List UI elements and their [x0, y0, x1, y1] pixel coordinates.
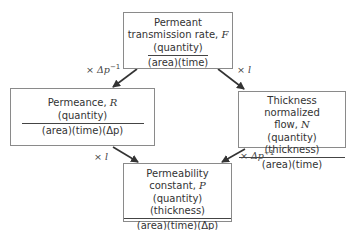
- factor-symbol: Δp: [97, 64, 110, 75]
- multiply-sign: ×: [237, 64, 248, 75]
- unit-fraction: (quantity)(thickness) (area)(time)(Δp): [124, 193, 231, 230]
- label-right-to-bottom: × Δp−1: [240, 150, 274, 161]
- title-line1: Thickness normalized: [239, 95, 345, 119]
- exponent: −1: [264, 149, 274, 157]
- multiply-sign: ×: [240, 150, 251, 161]
- title-text: transmission rate,: [128, 29, 222, 40]
- denominator: (area)(time)(Δp): [22, 124, 144, 137]
- box-thickness-normalized-flow: Thickness normalized flow, N (quantity)(…: [238, 91, 346, 148]
- numerator: (quantity): [22, 110, 144, 124]
- title-line2: constant, P: [124, 180, 231, 192]
- numerator: (quantity)(thickness): [124, 193, 231, 219]
- label-top-to-left: × Δp−1: [86, 64, 120, 75]
- variable-symbol: R: [110, 97, 118, 108]
- numerator: (quantity): [148, 42, 209, 56]
- title-line2: transmission rate, F: [124, 29, 232, 41]
- exponent: −1: [110, 63, 120, 71]
- title-text: flow,: [274, 119, 301, 130]
- title-line2: flow, N: [239, 119, 345, 131]
- title-text: constant,: [149, 180, 199, 191]
- unit-fraction: (quantity) (area)(time): [148, 42, 209, 69]
- multiply-sign: ×: [94, 151, 105, 162]
- unit-fraction: (quantity) (area)(time)(Δp): [22, 110, 144, 137]
- multiply-sign: ×: [86, 64, 97, 75]
- variable-symbol: P: [199, 180, 206, 191]
- arrow-left-to-bottom: [113, 147, 138, 162]
- factor-symbol: l: [248, 64, 251, 75]
- denominator: (area)(time): [148, 56, 209, 69]
- permeation-units-diagram: Permeant transmission rate, F (quantity)…: [0, 0, 353, 230]
- box-permeant-transmission-rate: Permeant transmission rate, F (quantity)…: [123, 12, 233, 69]
- title-line1: Permeance, R: [11, 97, 154, 109]
- factor-symbol: Δp: [251, 150, 264, 161]
- box-permeability-constant: Permeability constant, P (quantity)(thic…: [123, 163, 232, 222]
- title-line1: Permeability: [124, 168, 231, 180]
- title-line1: Permeant: [124, 17, 232, 29]
- factor-symbol: l: [105, 151, 108, 162]
- denominator: (area)(time)(Δp): [124, 219, 231, 230]
- label-top-to-right: × l: [237, 64, 251, 75]
- variable-symbol: F: [221, 29, 228, 40]
- variable-symbol: N: [301, 119, 310, 130]
- label-left-to-bottom: × l: [94, 151, 108, 162]
- box-permeance: Permeance, R (quantity) (area)(time)(Δp): [10, 88, 155, 146]
- title-text: Permeance,: [48, 97, 110, 108]
